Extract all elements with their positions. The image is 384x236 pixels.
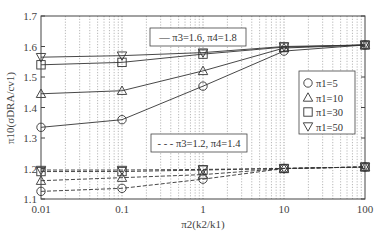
y-tick-label: 1.7 — [23, 10, 37, 22]
x-tick-label: 100 — [357, 203, 374, 215]
y-tick-label: 1.4 — [23, 102, 37, 114]
y-tick-label: 1.5 — [23, 71, 37, 83]
legend-entry: π1=30 — [316, 107, 343, 118]
x-axis: 0.010.1110100 — [31, 203, 373, 215]
y-tick-label: 1.2 — [23, 163, 37, 175]
y-tick-label: 1.3 — [23, 132, 37, 144]
legend-entry: π1=10 — [316, 93, 343, 104]
annotation-solid-group: — π3=1.6, π4=1.8 — [150, 28, 246, 46]
legend-entry: π1=50 — [316, 122, 343, 133]
x-tick-label: 0.01 — [31, 203, 50, 215]
legend: π1=5π1=10π1=30π1=50 — [299, 71, 355, 134]
x-tick-label: 0.1 — [115, 203, 129, 215]
x-axis-label: π2(k2/k1) — [181, 218, 225, 231]
x-tick-label: 10 — [279, 203, 291, 215]
annotation-solid-label: — π3=1.6, π4=1.8 — [158, 32, 237, 43]
y-tick-label: 1.6 — [23, 41, 37, 53]
annotation-dashed-group: - - - π3=1.2, π4=1.4 — [151, 134, 247, 152]
y-axis-label: π10(σDRA/cv1) — [4, 72, 17, 144]
chart: 1.11.21.31.41.51.61.7 0.010.1110100 π2(k… — [0, 0, 384, 236]
x-tick-label: 1 — [200, 203, 206, 215]
legend-entry: π1=5 — [316, 78, 338, 89]
annotation-dashed-label: - - - π3=1.2, π4=1.4 — [158, 138, 242, 149]
